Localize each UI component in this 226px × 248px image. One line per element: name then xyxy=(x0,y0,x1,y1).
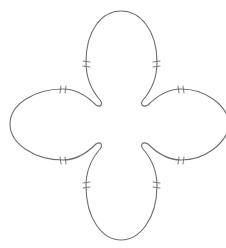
clover-curve xyxy=(10,11,226,240)
clover-outline xyxy=(10,11,226,240)
tick-marks xyxy=(60,61,184,188)
clover-diagram xyxy=(0,0,226,248)
